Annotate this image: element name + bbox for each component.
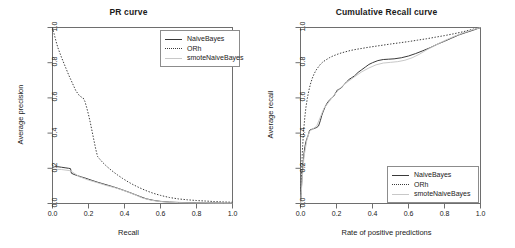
cumrecall-xtick-3: 0.6 <box>404 210 414 217</box>
pr-legend-item-orh: ORh <box>165 44 234 54</box>
pr-ytick-5: 1.0 <box>51 17 58 37</box>
pr-legend: NaiveBayes ORh smoteNaiveBayes <box>160 30 240 67</box>
pr-xtick-2: 0.4 <box>120 210 130 217</box>
cumrecall-legend-item-smotenaivebayes: smoteNaiveBayes <box>392 189 473 199</box>
line-light-icon <box>165 54 182 62</box>
pr-x-tick-marks <box>53 204 233 209</box>
pr-xtick-5: 1.0 <box>228 210 238 217</box>
pr-legend-label-1: ORh <box>187 44 201 54</box>
cumrecall-ytick-4: 0.8 <box>299 52 306 72</box>
series-line-smotenaivebayes <box>53 169 233 203</box>
pr-xtick-1: 0.2 <box>84 210 94 217</box>
pr-ytick-1: 0.2 <box>51 158 58 178</box>
cumrecall-xaxis-title: Rate of positive predictions <box>258 228 515 237</box>
cumrecall-xtick-1: 0.2 <box>332 210 342 217</box>
cumrecall-yaxis-title: Average recall <box>266 70 275 160</box>
cumrecall-legend-item-naivebayes: NaiveBayes <box>392 170 473 180</box>
pr-legend-label-2: smoteNaiveBayes <box>187 53 243 63</box>
plot-panel-cumrecall: Cumulative Recall curve 0.0 0. <box>258 0 515 248</box>
plot-panel-pr: PR curve <box>0 0 257 248</box>
cumrecall-x-tick-marks <box>301 204 481 209</box>
cumrecall-ytick-1: 0.2 <box>299 158 306 178</box>
cumrecall-legend-label-1: ORh <box>414 180 428 190</box>
pr-legend-item-smotenaivebayes: smoteNaiveBayes <box>165 53 234 63</box>
cumrecall-legend-label-0: NaiveBayes <box>414 170 451 180</box>
line-solid-icon <box>392 171 409 179</box>
cumrecall-legend-item-orh: ORh <box>392 180 473 190</box>
pr-ytick-4: 0.8 <box>51 52 58 72</box>
pr-ytick-0: 0.0 <box>51 193 58 213</box>
line-dotted-icon <box>165 44 182 52</box>
figure-root: PR curve <box>0 0 515 248</box>
pr-yaxis-title: Average precision <box>16 70 25 160</box>
pr-xtick-4: 0.8 <box>192 210 202 217</box>
pr-ytick-3: 0.6 <box>51 87 58 107</box>
line-dotted-icon <box>392 180 409 188</box>
pr-xtick-3: 0.6 <box>156 210 166 217</box>
cumrecall-ytick-2: 0.4 <box>299 123 306 143</box>
cumrecall-xtick-5: 1.0 <box>476 210 486 217</box>
cumrecall-ytick-5: 1.0 <box>299 17 306 37</box>
pr-ytick-2: 0.4 <box>51 123 58 143</box>
cumrecall-legend: NaiveBayes ORh smoteNaiveBayes <box>387 166 479 203</box>
line-solid-icon <box>165 35 182 43</box>
cumrecall-ytick-3: 0.6 <box>299 87 306 107</box>
pr-xaxis-title: Recall <box>0 228 257 237</box>
pr-legend-label-0: NaiveBayes <box>187 34 224 44</box>
pr-legend-item-naivebayes: NaiveBayes <box>165 34 234 44</box>
cumrecall-ytick-0: 0.0 <box>299 193 306 213</box>
cumrecall-legend-label-2: smoteNaiveBayes <box>414 189 470 199</box>
line-light-icon <box>392 190 409 198</box>
cumrecall-xtick-2: 0.4 <box>368 210 378 217</box>
cumrecall-xtick-4: 0.8 <box>440 210 450 217</box>
